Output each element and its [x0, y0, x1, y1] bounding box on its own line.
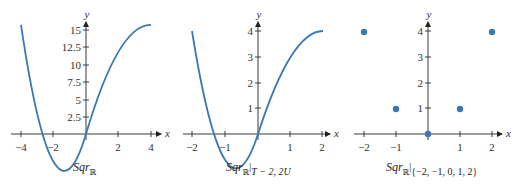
- caption-main: Sqr: [386, 160, 403, 174]
- panel-1-sqr-r: −4 −2 2 4 2.5 5 7.5 10 12.5 15 x y: [11, 8, 170, 171]
- x-axis-label: x: [333, 127, 339, 139]
- y-tick-label: 2.5: [67, 111, 81, 123]
- y-tick-label: 3: [248, 51, 254, 63]
- y-tick-label: 1: [418, 102, 424, 114]
- x-tick-label: −2: [358, 141, 370, 153]
- caption-restriction: {−2, −1, 0, 1, 2}: [411, 166, 477, 177]
- figure-canvas: −4 −2 2 4 2.5 5 7.5 10 12.5 15 x y −2 −1…: [0, 0, 523, 187]
- y-tick-label: 10: [70, 59, 82, 71]
- caption-panel-3: Sqrℝ|{−2, −1, 0, 1, 2}: [386, 160, 477, 175]
- y-tick-label: 12.5: [62, 41, 82, 53]
- x-tick-label: 2: [319, 141, 325, 153]
- x-axis-label: x: [164, 127, 170, 139]
- data-point: [361, 29, 367, 35]
- x-tick-label: 4: [148, 141, 154, 153]
- y-axis-label: y: [426, 8, 432, 20]
- caption-subscript: ℝ: [90, 168, 97, 177]
- caption-restriction: T − 2, 2U: [251, 166, 290, 177]
- x-axis-label: x: [505, 127, 511, 139]
- y-tick-label: 4: [248, 25, 254, 37]
- caption-panel-2: Sqrℝ|T − 2, 2U: [226, 160, 291, 175]
- data-point: [489, 29, 495, 35]
- x-tick-label: 1: [287, 141, 293, 153]
- y-tick-label: 15: [70, 24, 82, 36]
- caption-panel-1: Sqrℝ: [73, 160, 96, 175]
- data-point: [457, 106, 463, 112]
- x-tick-label: −4: [15, 141, 27, 153]
- x-tick-label: 2: [489, 141, 495, 153]
- x-tick-label: 2: [115, 141, 121, 153]
- caption-main: Sqr: [73, 160, 90, 174]
- x-tick-label: −1: [390, 141, 402, 153]
- y-tick-label: 1: [248, 102, 254, 114]
- x-tick-label: −2: [186, 141, 198, 153]
- caption-main: Sqr: [226, 160, 243, 174]
- y-axis-label: y: [84, 8, 90, 20]
- data-point: [393, 106, 399, 112]
- y-tick-label: 2: [248, 77, 254, 89]
- data-point: [425, 131, 431, 137]
- y-tick-label: 7.5: [67, 76, 81, 88]
- y-tick-label: 4: [418, 25, 424, 37]
- y-tick-label: 3: [418, 51, 424, 63]
- panel-3-sqr-restricted-discrete: −2 −1 1 2 1 2 3 4 x y: [354, 8, 511, 153]
- y-tick-label: 5: [76, 94, 82, 106]
- x-tick-label: 1: [457, 141, 463, 153]
- y-axis-label: y: [256, 8, 262, 20]
- panel-2-sqr-restricted-interval: −2 −1 1 2 1 2 3 4 x y: [183, 8, 339, 168]
- y-tick-label: 2: [418, 77, 424, 89]
